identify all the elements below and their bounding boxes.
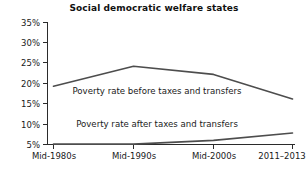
x-tick-label-mid-1990s: Mid-1990s — [112, 151, 157, 161]
y-tick-label-35: 35% — [21, 18, 40, 28]
x-tick-label-mid-1980s: Mid-1980s — [32, 151, 77, 161]
x-tick-marks — [54, 145, 293, 150]
y-tick-label-15: 15% — [21, 99, 40, 109]
y-tick-label-30: 30% — [21, 38, 40, 48]
y-tick-label-25: 25% — [21, 58, 40, 68]
x-tick-label-mid-2000s: Mid-2000s — [192, 151, 237, 161]
series-annotation-after-taxes: Poverty rate after taxes and transfers — [76, 119, 238, 129]
y-tick-label-20: 20% — [21, 79, 40, 89]
chart-plot-area: 35% 30% 25% 20% 15% 10% 5% Mid-1980s Mid… — [0, 0, 308, 170]
chart-container: Social democratic welfare states 35% 30%… — [0, 0, 308, 170]
y-tick-label-5: 5% — [27, 140, 41, 150]
series-line-after-taxes — [54, 133, 293, 144]
y-tick-label-10: 10% — [21, 120, 40, 130]
y-tick-marks — [43, 23, 48, 145]
series-annotation-before-taxes: Poverty rate before taxes and transfers — [72, 86, 242, 96]
x-tick-label-2011-2013: 2011–2013 — [258, 151, 306, 161]
